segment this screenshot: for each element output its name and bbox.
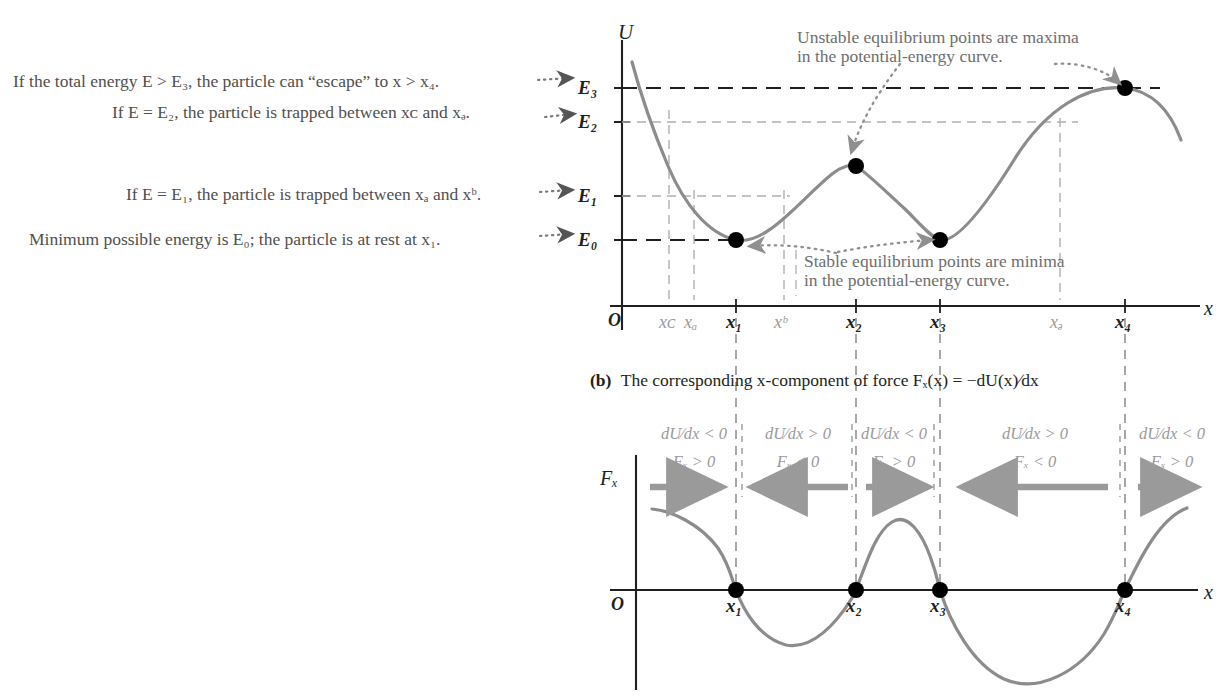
marker-x4-unstable [1117,80,1133,96]
force-region-5-force: Fₓ > 0 [1122,452,1222,472]
energy-label-E2: E₂ [578,111,597,133]
caption-E0: Minimum possible energy is E₀; the parti… [29,229,440,251]
caption-E2: If E = E₂, the particle is trapped betwe… [112,102,470,124]
upper-xtick-label-x3: x₃ [930,311,946,333]
marker-x3-stable [932,232,948,248]
energy-label-E0: E₀ [578,229,597,251]
annotation-maxima-line2: in the potential-energy curve. [797,45,1003,68]
leader-caption-E0 [540,234,570,236]
upper-y-axis-label: U [618,20,633,45]
force-region-1-force: Fₓ > 0 [644,452,744,472]
potential-energy-curve [632,62,1181,241]
caption-E3: If the total energy E > E₃, the particle… [13,71,439,93]
leader-caption-E1 [540,190,570,192]
caption-leaders [538,78,572,236]
force-region-1-derivative: dU∕dx < 0 [644,424,744,444]
energy-label-E1: E₁ [578,185,597,207]
lower-xtick-label-x1: x₁ [726,595,742,617]
upper-origin-label: O [608,310,621,331]
lower-xtick-label-x4: x₄ [1115,595,1131,617]
upper-xtick-label-xd: xₔ [1050,312,1063,333]
force-region-4-derivative: dU∕dx > 0 [985,424,1085,444]
force-region-4-force: Fₓ < 0 [985,452,1085,472]
marker-x1-stable [728,232,744,248]
upper-xtick-label-x1: x₁ [726,311,742,333]
force-region-2-derivative: dU∕dx > 0 [748,424,848,444]
lower-x-axis-label: x [1204,581,1213,604]
leader-caption-E2 [545,114,572,117]
force-region-5-derivative: dU∕dx < 0 [1122,424,1222,444]
upper-xtick-label-xc: xᴄ [659,312,675,333]
caption-E1: If E = E₁, the particle is trapped betwe… [126,184,481,206]
upper-xtick-label-x4: x₄ [1115,311,1131,333]
part-b-text: The corresponding x-component of force F… [621,370,1039,390]
lower-xtick-label-x2: x₂ [846,595,862,617]
marker-x2-unstable [848,158,864,174]
upper-xtick-label-xa: xₐ [684,312,697,333]
leader-caption-E3 [538,78,570,80]
part-b-label: (b) [590,370,611,390]
figure-container: If the total energy E > E₃, the particle… [0,0,1229,700]
force-region-3-force: Fₓ > 0 [846,452,942,472]
annotation-minima-line2: in the potential-energy curve. [804,269,1010,292]
energy-label-E3: E₃ [578,77,597,99]
upper-xtick-label-x2: x₂ [846,311,862,333]
force-region-3-derivative: dU∕dx < 0 [846,424,942,444]
upper-equilibrium-markers [728,80,1133,248]
lower-origin-label: O [611,594,624,615]
leader-unstable-to-x2 [852,64,900,150]
upper-x-axis-label: x [1204,297,1213,320]
part-b-header: (b) The corresponding x-component of for… [590,370,1039,391]
lower-xtick-label-x3: x₃ [930,595,946,617]
force-region-2-force: Fₓ < 0 [748,452,848,472]
leader-unstable-to-x4 [1055,64,1118,82]
lower-y-axis-label: Fₓ [600,467,618,490]
upper-xtick-label-xb: xᵇ [774,312,787,333]
